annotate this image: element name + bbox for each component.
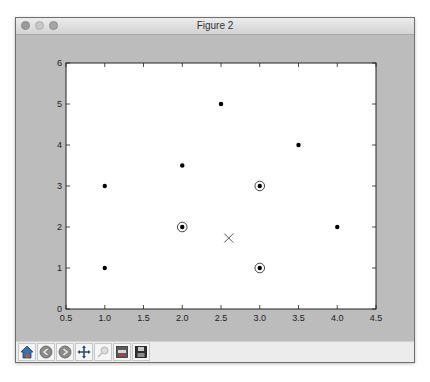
y-tick-label: 4 <box>57 140 62 150</box>
scatter-plot: 0.51.01.52.02.53.03.54.04.50123456 <box>16 35 414 343</box>
x-tick-label: 4.5 <box>370 313 383 323</box>
x-tick-label: 1.5 <box>137 313 150 323</box>
configure-subplots-button[interactable] <box>113 343 131 361</box>
data-point <box>180 163 184 167</box>
figure-canvas: 0.51.01.52.02.53.03.54.04.50123456 <box>16 35 414 343</box>
x-tick-label: 0.5 <box>60 313 73 323</box>
home-button[interactable] <box>18 343 36 361</box>
x-tick-label: 3.0 <box>253 313 266 323</box>
back-button[interactable] <box>37 343 55 361</box>
home-icon <box>20 345 34 359</box>
y-tick-label: 5 <box>57 99 62 109</box>
zoom-button[interactable] <box>94 343 112 361</box>
x-tick-label: 4.0 <box>331 313 344 323</box>
plot-area <box>66 63 376 309</box>
data-point <box>258 266 262 270</box>
data-point <box>103 266 107 270</box>
save-button[interactable] <box>132 343 150 361</box>
y-tick-label: 6 <box>57 58 62 68</box>
forward-button[interactable] <box>56 343 74 361</box>
x-tick-label: 1.0 <box>98 313 111 323</box>
window-title: Figure 2 <box>16 20 414 31</box>
save-floppy-icon <box>134 345 148 359</box>
data-point <box>103 184 107 188</box>
title-bar[interactable]: Figure 2 <box>16 18 414 35</box>
y-tick-label: 2 <box>57 222 62 232</box>
data-point <box>335 225 339 229</box>
data-point <box>219 102 223 106</box>
x-tick-label: 2.5 <box>215 313 228 323</box>
zoom-rect-icon <box>96 345 110 359</box>
pan-button[interactable] <box>75 343 93 361</box>
back-arrow-icon <box>39 345 53 359</box>
pan-move-icon <box>77 345 91 359</box>
x-tick-label: 3.5 <box>292 313 305 323</box>
y-tick-label: 3 <box>57 181 62 191</box>
figure-window: Figure 2 0.51.01.52.02.53.03.54.04.50123… <box>15 17 415 363</box>
data-point <box>180 225 184 229</box>
y-tick-label: 1 <box>57 263 62 273</box>
y-tick-label: 0 <box>57 304 62 314</box>
data-point <box>258 184 262 188</box>
forward-arrow-icon <box>58 345 72 359</box>
navigation-toolbar <box>16 341 414 362</box>
x-tick-label: 2.0 <box>176 313 189 323</box>
subplots-icon <box>115 345 129 359</box>
data-point <box>296 143 300 147</box>
